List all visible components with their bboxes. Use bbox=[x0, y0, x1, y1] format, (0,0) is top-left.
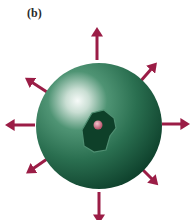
center-dot bbox=[94, 121, 103, 130]
sphere-diagram bbox=[0, 0, 191, 220]
